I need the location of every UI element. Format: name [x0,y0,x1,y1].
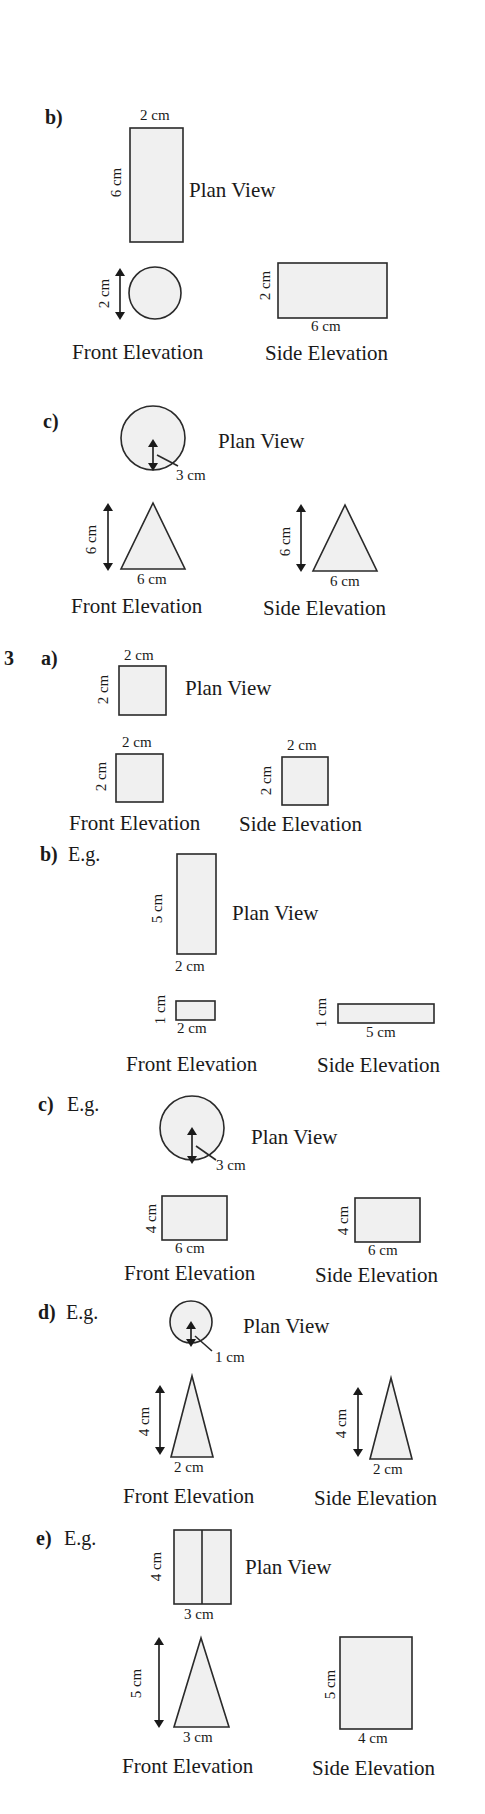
q3d-front-base: 2 cm [174,1459,204,1476]
q3b-part-label: b) [40,843,58,866]
q3a-side-elevation-label: Side Elevation [239,812,362,837]
q3d-side-height: 4 cm [333,1409,350,1439]
q3d-part-label: d) [38,1301,56,1324]
q3c-plan-view-label: Plan View [251,1125,337,1150]
q3d-eg-prefix: E.g. [66,1301,98,1324]
q2c-plan-radius: 3 cm [176,467,206,484]
q2c-front-height: 6 cm [83,525,100,555]
q3e-plan-height: 4 cm [148,1552,165,1582]
question-3-number: 3 [4,647,14,670]
q3c-side-width: 6 cm [368,1242,398,1259]
q3e-plan-view-label: Plan View [245,1555,331,1580]
q3d-front-height: 4 cm [136,1407,153,1437]
q3e-plan-width: 3 cm [184,1606,214,1623]
q3d-side-triangle [370,1378,412,1459]
q3c-front-rectangle [162,1196,227,1240]
q3e-side-width: 4 cm [358,1730,388,1747]
q3b-plan-rectangle [177,854,216,954]
q3c-front-width: 6 cm [175,1240,205,1257]
q3c-eg-prefix: E.g. [67,1093,99,1116]
q3c-part-label: c) [38,1093,54,1116]
q3b-side-width: 5 cm [366,1024,396,1041]
q2b-front-diameter: 2 cm [96,279,113,309]
q2b-front-elevation-label: Front Elevation [72,340,203,365]
q3d-plan-radius: 1 cm [215,1349,245,1366]
q2b-part-label: b) [45,106,63,129]
q3a-front-elevation-label: Front Elevation [69,811,200,836]
q3c-plan-radius: 3 cm [216,1157,246,1174]
q3c-side-rectangle [355,1198,420,1242]
q3c-front-elevation-label: Front Elevation [124,1261,255,1286]
q3b-front-elevation-label: Front Elevation [126,1052,257,1077]
q3e-front-triangle [174,1638,229,1727]
q3a-side-width: 2 cm [287,737,317,754]
q3b-front-rectangle [176,1001,215,1020]
q3e-front-base: 3 cm [183,1729,213,1746]
q3b-plan-width: 2 cm [175,958,205,975]
q3a-plan-view-label: Plan View [185,676,271,701]
q3e-front-height: 5 cm [128,1669,145,1699]
q2b-front-circle [129,267,181,319]
q2c-plan-view-label: Plan View [218,429,304,454]
q3b-side-height: 1 cm [313,998,330,1028]
q2b-side-rectangle [278,263,387,318]
q3e-front-elevation-label: Front Elevation [122,1754,253,1779]
q3d-plan-view-label: Plan View [243,1314,329,1339]
q3e-side-height: 5 cm [322,1670,339,1700]
q2b-plan-rectangle [130,128,183,242]
q3c-front-height: 4 cm [143,1204,160,1234]
q3c-side-elevation-label: Side Elevation [315,1263,438,1288]
q2c-side-triangle [313,505,377,571]
q3a-front-height: 2 cm [93,762,110,792]
q3d-side-base: 2 cm [373,1461,403,1478]
q2b-side-height: 2 cm [257,271,274,301]
q3b-side-rectangle [338,1004,434,1023]
q2c-front-elevation-label: Front Elevation [71,594,202,619]
q2c-front-base: 6 cm [137,571,167,588]
q3d-front-elevation-label: Front Elevation [123,1484,254,1509]
q3e-eg-prefix: E.g. [64,1527,96,1550]
q2b-side-elevation-label: Side Elevation [265,341,388,366]
q2c-side-base: 6 cm [330,573,360,590]
q2b-plan-view-label: Plan View [189,178,275,203]
q3d-front-triangle [171,1376,213,1457]
q2b-plan-width: 2 cm [140,107,170,124]
q3e-part-label: e) [36,1527,52,1550]
q3d-side-elevation-label: Side Elevation [314,1486,437,1511]
q3a-part-label: a) [41,647,58,670]
q3e-side-elevation-label: Side Elevation [312,1756,435,1781]
q3b-plan-height: 5 cm [149,894,166,924]
q3a-plan-width: 2 cm [124,647,154,664]
q3b-side-elevation-label: Side Elevation [317,1053,440,1078]
q3e-side-rectangle [340,1637,412,1729]
q3b-front-width: 2 cm [177,1020,207,1037]
q3a-front-square [116,754,163,802]
q3b-front-height: 1 cm [152,995,169,1025]
q3a-front-width: 2 cm [122,734,152,751]
q3a-plan-height: 2 cm [95,675,112,705]
q2b-side-width: 6 cm [311,318,341,335]
q3a-side-square [282,757,328,805]
q2c-part-label: c) [43,410,59,433]
q2b-plan-height: 6 cm [108,168,125,198]
q3a-side-height: 2 cm [258,766,275,796]
q3b-eg-prefix: E.g. [68,843,100,866]
q3b-plan-view-label: Plan View [232,901,318,926]
q2c-side-height: 6 cm [277,527,294,557]
q2c-side-elevation-label: Side Elevation [263,596,386,621]
q3c-side-height: 4 cm [335,1206,352,1236]
q2c-front-triangle [121,503,185,569]
q3a-plan-square [119,666,166,715]
